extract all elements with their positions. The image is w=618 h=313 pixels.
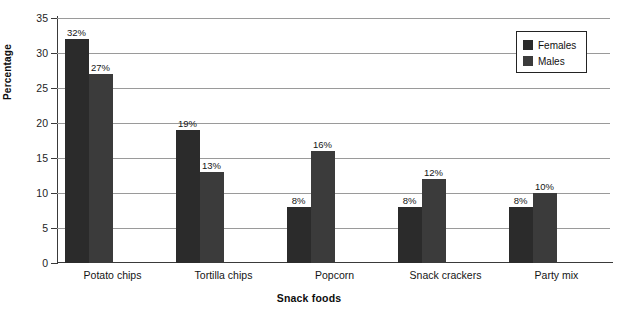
y-axis-tick-label: 10 [36, 187, 48, 199]
legend-swatch-icon-females [523, 40, 533, 50]
legend-swatch-icon-males [523, 56, 533, 66]
bar-females: 8% [398, 207, 422, 263]
gridline [57, 18, 610, 19]
bar-value-label: 8% [403, 196, 417, 206]
bar-value-label: 10% [535, 182, 554, 192]
y-axis-tick [51, 158, 57, 159]
x-axis-tick-label: Party mix [535, 269, 579, 281]
legend: Females Males [516, 31, 587, 73]
bar-females: 8% [287, 207, 311, 263]
y-axis-tick [51, 18, 57, 19]
bar-value-label: 13% [202, 161, 221, 171]
y-axis-tick-label: 30 [36, 47, 48, 59]
x-axis-tick-label: Potato chips [84, 269, 142, 281]
x-axis-tick-label: Tortilla chips [195, 269, 253, 281]
y-axis-tick [51, 123, 57, 124]
x-axis-tick-label: Snack crackers [410, 269, 482, 281]
bar-chart: Percentage 05101520253035 32%27%19%13%8%… [0, 0, 618, 313]
legend-label-females: Females [538, 40, 576, 51]
bar-males: 12% [422, 179, 446, 263]
bar-value-label: 19% [178, 119, 197, 129]
x-axis-title: Snack foods [0, 292, 618, 304]
y-axis-tick-label: 0 [42, 257, 48, 269]
bar-value-label: 8% [292, 196, 306, 206]
gridline [57, 123, 610, 124]
legend-label-males: Males [538, 56, 565, 67]
bar-value-label: 12% [424, 168, 443, 178]
y-axis-tick [51, 228, 57, 229]
bar-females: 32% [65, 39, 89, 263]
bar-males: 27% [89, 74, 113, 263]
bar-value-label: 27% [91, 63, 110, 73]
legend-item-females: Females [523, 37, 586, 53]
y-axis-tick-label: 15 [36, 152, 48, 164]
y-axis-tick-label: 20 [36, 117, 48, 129]
y-axis-tick-label: 25 [36, 82, 48, 94]
y-axis-tick [51, 263, 57, 264]
bar-value-label: 32% [67, 28, 86, 38]
y-axis-tick [51, 53, 57, 54]
x-axis-tick-label: Popcorn [315, 269, 354, 281]
bar-males: 10% [533, 193, 557, 263]
y-axis-tick [51, 193, 57, 194]
gridline [57, 88, 610, 89]
bar-females: 19% [176, 130, 200, 263]
bar-females: 8% [509, 207, 533, 263]
y-axis-title: Percentage [2, 44, 13, 100]
y-axis-tick-label: 35 [36, 12, 48, 24]
bar-males: 16% [311, 151, 335, 263]
bar-males: 13% [200, 172, 224, 263]
y-axis-tick-label: 5 [42, 222, 48, 234]
y-axis-tick [51, 88, 57, 89]
legend-item-males: Males [523, 53, 586, 69]
bar-value-label: 8% [514, 196, 528, 206]
bar-value-label: 16% [313, 140, 332, 150]
